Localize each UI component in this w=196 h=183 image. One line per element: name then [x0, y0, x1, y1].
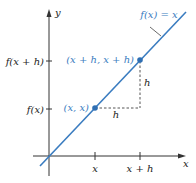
y-tick-label-f-x: f(x) — [26, 104, 44, 115]
x-axis-label: x — [183, 158, 189, 169]
vertical-increment-label: h — [144, 77, 150, 88]
function-label-leader-line — [150, 27, 161, 36]
y-axis — [47, 9, 52, 176]
x-tick-label-x: x — [92, 163, 98, 174]
y-axis-label: y — [54, 7, 61, 18]
diagram-canvas: y x f(x + h) f(x) x x + h h h f(x) = x (… — [0, 0, 196, 183]
horizontal-increment-label: h — [113, 109, 119, 120]
function-line — [40, 12, 186, 166]
point-label-x-x: (x, x) — [64, 102, 90, 113]
point-x-x — [92, 105, 98, 111]
y-axis-arrow-icon — [47, 9, 52, 17]
point-x-plus-h — [137, 57, 143, 63]
y-tick-label-f-x-plus-h: f(x + h) — [5, 56, 44, 67]
x-tick-label-x-plus-h: x + h — [127, 163, 154, 174]
point-label-x-plus-h: (x + h, x + h) — [66, 54, 134, 65]
x-axis — [33, 154, 186, 159]
function-label: f(x) = x — [139, 9, 178, 20]
